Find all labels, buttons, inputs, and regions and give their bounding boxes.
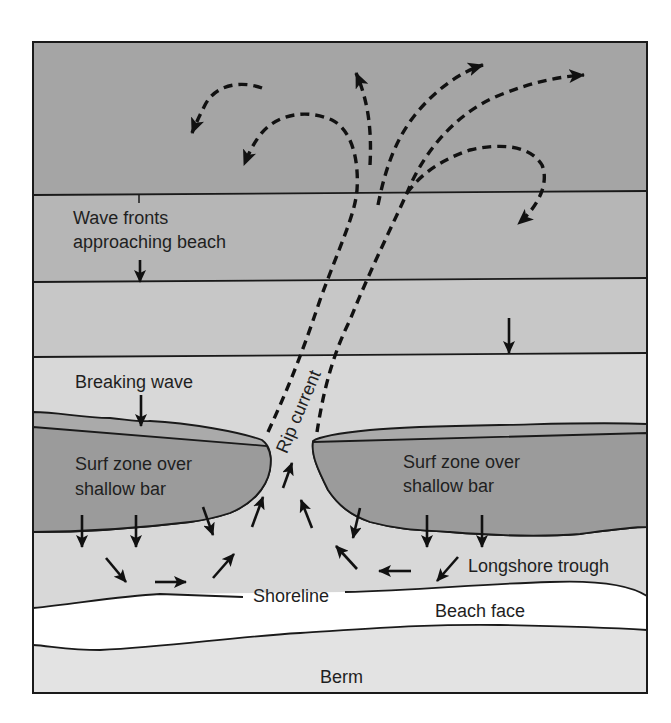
offshore-band <box>33 42 647 195</box>
label-shoreline: Shoreline <box>253 586 329 606</box>
label-surf-zone-right: Surf zone over <box>403 452 520 472</box>
label-berm: Berm <box>320 667 363 687</box>
label-surf-zone-left: Surf zone over <box>75 454 192 474</box>
label-beach-face: Beach face <box>435 601 525 621</box>
label-approaching-beach: approaching beach <box>73 232 226 252</box>
label-shallow-bar-left: shallow bar <box>75 479 166 499</box>
rip-current-diagram: Wave fronts approaching beach Breaking w… <box>0 0 671 723</box>
label-shallow-bar-right: shallow bar <box>403 476 494 496</box>
label-longshore-trough: Longshore trough <box>468 556 609 576</box>
label-wave-fronts: Wave fronts <box>73 208 168 228</box>
label-breaking-wave: Breaking wave <box>75 372 193 392</box>
